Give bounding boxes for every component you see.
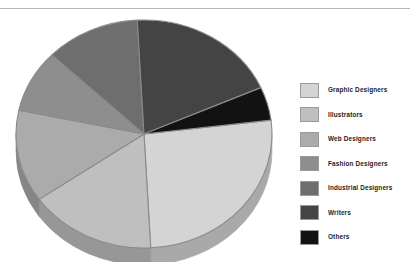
- legend-swatch-icon: [300, 156, 319, 171]
- legend-item-label: Others: [328, 234, 350, 240]
- legend-swatch-icon: [300, 181, 319, 196]
- legend-item[interactable]: Industrial Designers: [300, 176, 408, 201]
- legend-item-label: Illustrators: [328, 112, 363, 118]
- pie-chart-svg: Graphic Designers: 26%Illustrators: 16%W…: [8, 12, 293, 262]
- pie-chart-area: Graphic Designers: 26%Illustrators: 16%W…: [8, 12, 293, 262]
- legend-item[interactable]: Web Designers: [300, 127, 408, 152]
- legend-item[interactable]: Illustrators: [300, 103, 408, 128]
- legend-item-label: Web Designers: [328, 136, 376, 142]
- legend-item-label: Graphic Designers: [328, 87, 387, 93]
- legend-item[interactable]: Graphic Designers: [300, 78, 408, 103]
- legend-swatch-icon: [300, 107, 319, 122]
- legend-item-label: Fashion Designers: [328, 161, 388, 167]
- pie-slice-graphic-designers[interactable]: Graphic Designers: 26%: [144, 120, 272, 248]
- chart-legend: Graphic DesignersIllustratorsWeb Designe…: [300, 78, 408, 250]
- legend-swatch-icon: [300, 205, 319, 220]
- legend-item[interactable]: Others: [300, 225, 408, 250]
- chart-page: Graphic Designers: 26%Illustrators: 16%W…: [0, 0, 410, 275]
- top-divider-rule: [0, 8, 410, 9]
- legend-swatch-icon: [300, 132, 319, 147]
- legend-swatch-icon: [300, 83, 319, 98]
- legend-item-label: Writers: [328, 210, 351, 216]
- legend-item[interactable]: Writers: [300, 201, 408, 226]
- legend-swatch-icon: [300, 230, 319, 245]
- legend-item[interactable]: Fashion Designers: [300, 152, 408, 177]
- legend-item-label: Industrial Designers: [328, 185, 392, 191]
